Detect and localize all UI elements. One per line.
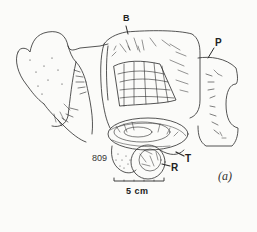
label-b: B bbox=[123, 14, 130, 23]
label-r: R bbox=[171, 163, 178, 173]
label-t: T bbox=[185, 154, 191, 164]
panel-label: (a) bbox=[218, 170, 232, 182]
specimen-line-drawing bbox=[0, 0, 257, 232]
specimen-number: 809 bbox=[92, 154, 107, 163]
scale-bar-label: 5 cm bbox=[126, 187, 149, 196]
illustration-figure: B P T R 809 5 cm (a) bbox=[0, 0, 257, 232]
label-p: P bbox=[215, 38, 222, 48]
